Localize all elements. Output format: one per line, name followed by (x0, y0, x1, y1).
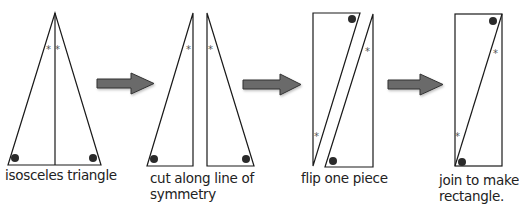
corner-dot-icon (489, 17, 497, 25)
isosceles-triangle (8, 13, 101, 165)
diagonal-join (455, 14, 502, 166)
corner-dot-icon (329, 157, 337, 165)
corner-dot-icon (89, 154, 97, 162)
star-mark-icon: * (46, 44, 51, 55)
corner-dot-icon (458, 158, 466, 166)
flipped-piece (313, 13, 360, 166)
star-mark-icon: * (365, 46, 370, 57)
corner-dot-icon (348, 15, 356, 23)
star-mark-icon: * (314, 131, 319, 142)
corner-dot-icon (242, 155, 250, 163)
corner-dot-icon (150, 155, 158, 163)
caption-line: flip one piece (301, 170, 388, 186)
cut-left-half (147, 13, 193, 166)
caption-line: rectangle. (439, 188, 519, 204)
star-mark-icon: * (55, 44, 60, 55)
stationary-piece (325, 14, 373, 167)
star-mark-icon: * (455, 131, 460, 142)
caption-line: cut along line of (150, 170, 254, 186)
caption-line: isosceles triangle (5, 167, 117, 183)
arrow-right-icon (388, 74, 443, 95)
apex-angle-marks: * * (46, 44, 60, 55)
caption-line: join to make (439, 172, 519, 188)
caption-flip-one-piece: flip one piece (301, 170, 388, 186)
flipped-pieces (313, 13, 373, 167)
arrow-right-icon (97, 73, 154, 94)
caption-line: symmetry (150, 186, 254, 202)
star-mark-icon: * (493, 48, 498, 59)
caption-join-rectangle: join to make rectangle. (439, 172, 519, 204)
final-rectangle (455, 14, 502, 166)
corner-dot-icon (11, 154, 19, 162)
caption-isosceles-triangle: isosceles triangle (5, 167, 117, 183)
arrow-right-icon (243, 74, 301, 95)
caption-cut-along-symmetry: cut along line of symmetry (150, 170, 254, 202)
star-mark-icon: * (186, 44, 191, 55)
star-mark-icon: * (208, 44, 213, 55)
